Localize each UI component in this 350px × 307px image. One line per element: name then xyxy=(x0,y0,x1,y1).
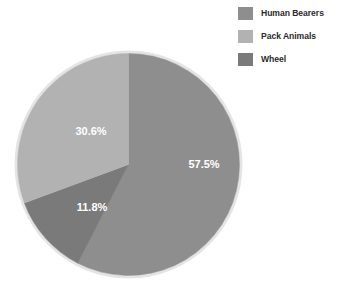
legend-label-pack-animals: Pack Animals xyxy=(261,30,316,43)
pie-chart-figure: 57.5% 30.6% 11.8% Human Bearers Pack Ani… xyxy=(0,0,350,307)
pie-label-pack-animals: 30.6% xyxy=(75,125,106,137)
pie-label-wheel: 11.8% xyxy=(77,201,108,213)
legend-item-human-bearers[interactable]: Human Bearers xyxy=(238,6,346,20)
legend: Human Bearers Pack Animals Wheel xyxy=(238,6,346,66)
legend-label-human-bearers: Human Bearers xyxy=(261,7,324,20)
pie-label-human-bearers: 57.5% xyxy=(188,158,219,170)
legend-swatch-wheel xyxy=(238,53,253,66)
legend-item-pack-animals[interactable]: Pack Animals xyxy=(238,29,346,43)
legend-swatch-human-bearers xyxy=(238,7,253,20)
legend-item-wheel[interactable]: Wheel xyxy=(238,52,346,66)
legend-swatch-pack-animals xyxy=(238,30,253,43)
legend-label-wheel: Wheel xyxy=(261,53,286,66)
